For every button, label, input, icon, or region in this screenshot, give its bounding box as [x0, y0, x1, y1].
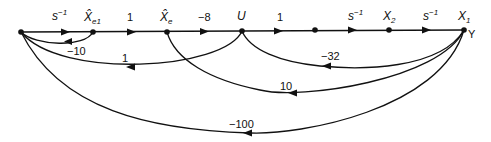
node-xe	[164, 29, 170, 35]
node-xe1	[90, 29, 96, 35]
gain-x2-x1: s−1	[423, 8, 438, 23]
label-xe: X̂e	[159, 9, 173, 26]
edge-x1-u	[242, 30, 464, 68]
edge-x1-xe	[167, 30, 464, 93]
label-u: U	[237, 9, 246, 23]
gain-xe1-n0: −10	[67, 45, 86, 57]
arrow-xe1-xe	[127, 29, 136, 36]
arrow-xe1-n0	[64, 38, 72, 45]
arrow-x2-x1	[422, 27, 431, 34]
gain-xe-u: −8	[198, 11, 211, 23]
gain-n4-x2: s−1	[348, 8, 363, 23]
label-output-y: Y	[468, 28, 476, 40]
edge-u-n0	[21, 31, 242, 64]
gain-x1-n0: −100	[229, 118, 254, 130]
label-x2: X2	[382, 9, 396, 25]
arrow-x1-n0	[243, 130, 252, 137]
node-intermediate	[312, 27, 318, 33]
gain-u-n0: 1	[122, 52, 128, 64]
gain-x1-u: −32	[321, 50, 340, 62]
arrow-n4-x2	[348, 27, 357, 34]
label-xe1: X̂e1	[83, 9, 101, 26]
label-x1: X1	[457, 9, 470, 25]
arrow-x1-u	[322, 63, 331, 70]
node-u	[239, 28, 245, 34]
node-x1	[461, 27, 467, 33]
arrow-n0-xe1	[61, 29, 70, 36]
arrow-u-n4	[274, 28, 283, 35]
signal-flow-graph: X̂e1 X̂e U X2 X1 Y s−1 1 −8 1 s−1 s−1 −1…	[0, 0, 491, 142]
gain-xe1-xe: 1	[127, 11, 133, 23]
arrow-xe-u	[200, 28, 209, 35]
gain-x1-xe: 10	[280, 80, 292, 92]
gain-n0-xe1: s−1	[52, 8, 67, 23]
node-input	[18, 29, 24, 35]
node-x2	[386, 27, 392, 33]
gain-u-n4: 1	[277, 11, 283, 23]
